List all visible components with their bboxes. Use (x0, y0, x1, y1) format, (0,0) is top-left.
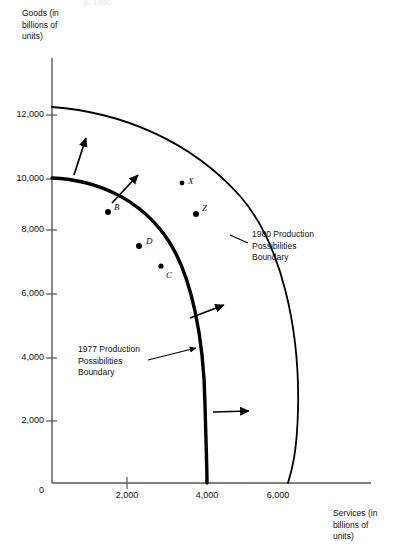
dot-point-z (193, 211, 199, 217)
annotation-1980-boundary: 1980 Production Possibilities Boundary (252, 229, 314, 264)
x-tick-label-6000: 6,000 (256, 490, 300, 500)
point-label-z: Z (202, 203, 207, 213)
leader-1977 (148, 348, 196, 360)
dot-point-d (136, 243, 142, 249)
y-tick-label-4000: 4,000 (0, 352, 44, 362)
x-tick-label-4000: 4,000 (185, 490, 229, 500)
leader-1980 (230, 235, 248, 243)
y-tick-label-12000: 12,000 (0, 109, 44, 119)
dot-point-b (105, 209, 111, 215)
y-tick-label-10000: 10,000 (0, 173, 44, 183)
point-label-d: D (146, 236, 153, 246)
dot-point-c (158, 263, 163, 268)
point-label-c: C (166, 270, 172, 280)
production-possibilities-chart: p. 1980 (0, 0, 393, 550)
axes-group (52, 58, 371, 483)
y-tick-label-8000: 8,000 (0, 224, 44, 234)
y-axis-title: Goods (in billions of units) (22, 8, 59, 43)
curve-1980-production-possibilities-boundary (52, 107, 298, 483)
chart-canvas (0, 0, 393, 550)
x-tick-label-2000: 2,000 (105, 490, 149, 500)
origin-label: 0 (22, 485, 44, 495)
dot-point-x (180, 181, 185, 186)
x-axis-title: Services (in billions of units) (333, 508, 377, 543)
y-tick-label-6000: 6,000 (0, 288, 44, 298)
growth-arrow-4 (213, 411, 249, 412)
callout-leaders (148, 235, 248, 360)
growth-arrow-1 (74, 138, 86, 175)
point-label-x: X (188, 176, 194, 186)
y-tick-label-2000: 2,000 (0, 415, 44, 425)
annotation-1977-boundary: 1977 Production Possibilities Boundary (78, 344, 140, 379)
point-label-b: B (114, 202, 120, 212)
curve-1977-production-possibilities-boundary (52, 178, 207, 483)
